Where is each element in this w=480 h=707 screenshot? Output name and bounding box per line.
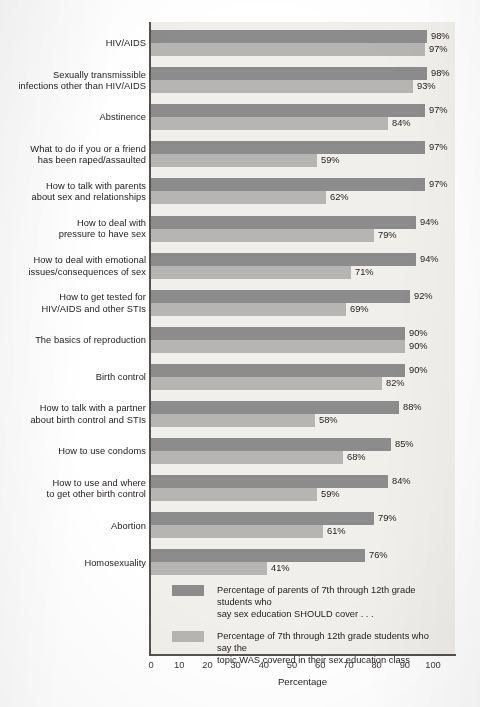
category-label-line: How to talk with parents: [0, 181, 146, 193]
category-label-line: How to talk with a partner: [0, 403, 146, 415]
category-label: How to deal withpressure to have sex: [0, 218, 146, 241]
bar-should: [151, 401, 399, 414]
category-label-line: How to use condoms: [0, 446, 146, 458]
bar-value-label: 98%: [431, 67, 450, 80]
category-label: How to talk with a partnerabout birth co…: [0, 403, 146, 426]
x-tick-label: 50: [287, 660, 297, 670]
category-label: HIV/AIDS: [0, 38, 146, 50]
bar-value-label: 97%: [429, 43, 448, 56]
category-label-line: about sex and relationships: [0, 192, 146, 204]
bar-value-label: 93%: [417, 80, 436, 93]
bar-covered: [151, 191, 326, 204]
bar-value-label: 69%: [350, 303, 369, 316]
bar-value-label: 90%: [409, 364, 428, 377]
bar-covered: [151, 414, 315, 427]
bar-value-label: 92%: [414, 290, 433, 303]
category-label-line: Homosexuality: [0, 558, 146, 570]
category-label: How to deal with emotionalissues/consequ…: [0, 255, 146, 278]
grouped-bar-chart: HIV/AIDS98%97%Sexually transmissibleinfe…: [0, 0, 480, 707]
category-label: Homosexuality: [0, 558, 146, 570]
bar-value-label: 79%: [378, 512, 397, 525]
x-tick-label: 20: [202, 660, 212, 670]
bar-value-label: 79%: [378, 229, 397, 242]
bar-value-label: 90%: [409, 340, 428, 353]
category-label: Birth control: [0, 372, 146, 384]
category-label-line: Birth control: [0, 372, 146, 384]
bar-covered: [151, 117, 388, 130]
category-label: Abstinence: [0, 112, 146, 124]
category-label: How to use and whereto get other birth c…: [0, 478, 146, 501]
bar-covered: [151, 451, 343, 464]
bar-should: [151, 104, 425, 117]
bar-value-label: 84%: [392, 475, 411, 488]
x-tick-label: 70: [343, 660, 353, 670]
bar-covered: [151, 229, 374, 242]
category-label: Sexually transmissibleinfections other t…: [0, 70, 146, 93]
bar-should: [151, 290, 410, 303]
bar-should: [151, 438, 391, 451]
legend-label-line: Percentage of 7th through 12th grade stu…: [217, 630, 440, 654]
category-label-line: to get other birth control: [0, 489, 146, 501]
bar-covered: [151, 340, 405, 353]
bar-covered: [151, 377, 382, 390]
category-label: How to use condoms: [0, 446, 146, 458]
x-tick-label: 80: [371, 660, 381, 670]
category-label-line: about birth control and STIs: [0, 415, 146, 427]
category-label-line: Abortion: [0, 521, 146, 533]
category-label-line: has been raped/assaulted: [0, 155, 146, 167]
category-label-line: How to get tested for: [0, 292, 146, 304]
x-tick-label: 100: [425, 660, 441, 670]
bar-value-label: 68%: [347, 451, 366, 464]
bar-value-label: 84%: [392, 117, 411, 130]
category-label-line: issues/consequences of sex: [0, 267, 146, 279]
x-tick-label: 0: [148, 660, 153, 670]
bar-should: [151, 364, 405, 377]
bar-should: [151, 30, 427, 43]
bar-should: [151, 67, 427, 80]
bar-value-label: 62%: [330, 191, 349, 204]
category-label: What to do if you or a friendhas been ra…: [0, 144, 146, 167]
category-label-line: How to deal with: [0, 218, 146, 230]
bar-covered: [151, 266, 351, 279]
bar-covered: [151, 154, 317, 167]
bar-covered: [151, 562, 267, 575]
category-label: How to get tested forHIV/AIDS and other …: [0, 292, 146, 315]
legend-label-line: Percentage of parents of 7th through 12t…: [217, 584, 440, 608]
category-label: Abortion: [0, 521, 146, 533]
bar-covered: [151, 43, 425, 56]
category-label-line: The basics of reproduction: [0, 335, 146, 347]
x-tick-label: 10: [174, 660, 184, 670]
bar-value-label: 41%: [271, 562, 290, 575]
bar-covered: [151, 525, 323, 538]
bar-value-label: 97%: [429, 178, 448, 191]
x-tick-label: 40: [259, 660, 269, 670]
x-tick-label: 90: [400, 660, 410, 670]
bar-value-label: 97%: [429, 141, 448, 154]
bar-should: [151, 327, 405, 340]
bar-value-label: 82%: [386, 377, 405, 390]
bar-covered: [151, 303, 346, 316]
bar-should: [151, 475, 388, 488]
legend-swatch-should: [172, 585, 204, 596]
category-label-line: Sexually transmissible: [0, 70, 146, 82]
bar-value-label: 59%: [321, 488, 340, 501]
bar-value-label: 71%: [355, 266, 374, 279]
category-label-line: How to deal with emotional: [0, 255, 146, 267]
category-label-line: HIV/AIDS: [0, 38, 146, 50]
bar-value-label: 76%: [369, 549, 388, 562]
bar-value-label: 94%: [420, 216, 439, 229]
bar-value-label: 97%: [429, 104, 448, 117]
legend-item: Percentage of parents of 7th through 12t…: [172, 584, 440, 621]
category-label-line: HIV/AIDS and other STIs: [0, 304, 146, 316]
bar-value-label: 94%: [420, 253, 439, 266]
bar-should: [151, 178, 425, 191]
bar-value-label: 85%: [395, 438, 414, 451]
category-label-line: infections other than HIV/AIDS: [0, 81, 146, 93]
category-label-line: Abstinence: [0, 112, 146, 124]
scanned-page: HIV/AIDS98%97%Sexually transmissibleinfe…: [0, 0, 480, 707]
bar-should: [151, 512, 374, 525]
category-label-line: pressure to have sex: [0, 229, 146, 241]
bar-should: [151, 141, 425, 154]
category-label: The basics of reproduction: [0, 335, 146, 347]
bar-should: [151, 216, 416, 229]
